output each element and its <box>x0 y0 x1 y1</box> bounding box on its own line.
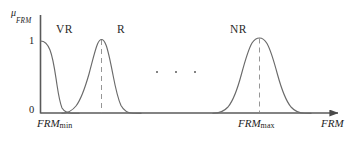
x-tick-frm-min: FRMmin <box>37 118 72 130</box>
ellipsis-dot <box>175 71 177 73</box>
ellipsis-dot <box>156 71 158 73</box>
x-axis-label: FRM <box>321 118 344 129</box>
fuzzy-membership-figure: μ FRM 1 0 VR R NR FRMmin FRMmax FRM <box>0 0 360 141</box>
x-tick-frm-max-sub: max <box>261 121 275 130</box>
y-tick-0: 0 <box>29 105 34 116</box>
x-tick-frm-min-sub: min <box>60 121 73 130</box>
curve-nr <box>213 38 311 113</box>
ellipsis-dot <box>194 71 196 73</box>
curve-vr <box>41 41 80 113</box>
set-label-r: R <box>117 24 125 36</box>
set-label-vr: VR <box>56 24 73 36</box>
mu-subscript: FRM <box>16 18 31 25</box>
set-label-nr: NR <box>230 24 247 36</box>
y-axis-label: μ FRM <box>11 3 31 25</box>
x-tick-frm-min-base: FRM <box>37 117 60 129</box>
y-tick-1: 1 <box>29 36 34 47</box>
x-tick-frm-max: FRMmax <box>238 118 275 130</box>
x-tick-frm-max-base: FRM <box>238 117 261 129</box>
